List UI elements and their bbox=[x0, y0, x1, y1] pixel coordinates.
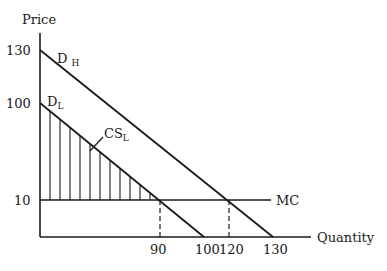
x-tick-100: 100 bbox=[195, 243, 220, 256]
x-tick-90: 90 bbox=[150, 243, 167, 256]
dl-label: DL bbox=[47, 95, 63, 108]
x-tick-130: 130 bbox=[263, 243, 288, 256]
y-tick-100: 100 bbox=[6, 97, 31, 110]
mc-label: MC bbox=[276, 194, 299, 207]
y-tick-130: 130 bbox=[6, 44, 31, 57]
dh-label: D H bbox=[57, 52, 79, 65]
y-tick-10: 10 bbox=[14, 194, 31, 207]
x-axis-label: Quantity bbox=[317, 231, 374, 244]
y-axis-label: Price bbox=[22, 13, 56, 26]
dh-line bbox=[40, 50, 273, 237]
cs-label: CSL bbox=[104, 127, 129, 140]
dl-line bbox=[40, 103, 204, 237]
x-tick-120: 120 bbox=[219, 243, 244, 256]
